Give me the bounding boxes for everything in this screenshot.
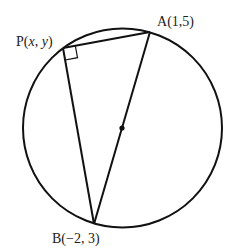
label-p: P(x, y): [16, 34, 53, 50]
chord-pb: [63, 48, 94, 224]
circle-diagram: P(x, y) A(1,5) B(−2, 3): [0, 0, 237, 248]
label-b: B(−2, 3): [52, 231, 100, 247]
label-a: A(1,5): [157, 14, 194, 30]
center-dot: [119, 125, 124, 130]
